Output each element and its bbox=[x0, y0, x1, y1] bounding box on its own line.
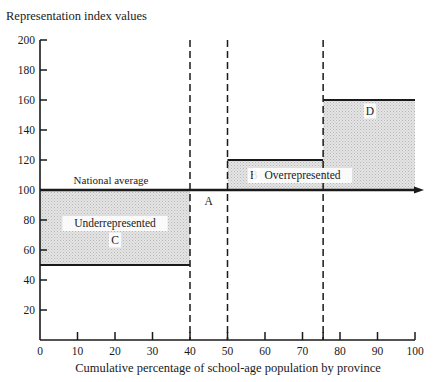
x-tick-label: 70 bbox=[297, 345, 309, 357]
x-tick-label: 60 bbox=[259, 345, 271, 357]
y-tick-label: 140 bbox=[18, 124, 36, 136]
x-tick-label: 20 bbox=[109, 345, 121, 357]
x-tick-label: 100 bbox=[406, 345, 424, 357]
x-tick-label: 80 bbox=[334, 345, 346, 357]
y-axis-title: Representation index values bbox=[6, 9, 147, 23]
y-tick-label: 180 bbox=[18, 64, 36, 76]
annotation-c: C bbox=[111, 234, 119, 246]
y-tick-label: 40 bbox=[24, 274, 36, 286]
x-tick-label: 50 bbox=[222, 345, 234, 357]
national-average-label: National average bbox=[74, 174, 149, 186]
x-tick-label: 90 bbox=[372, 345, 384, 357]
y-tick-label: 160 bbox=[18, 94, 36, 106]
y-tick-label: 80 bbox=[24, 214, 36, 226]
annotation-underrepresented: Underrepresented bbox=[74, 217, 156, 230]
x-tick-label: 30 bbox=[147, 345, 159, 357]
annotation-overrepresented: Overrepresented bbox=[265, 169, 341, 182]
y-tick-label: 200 bbox=[18, 34, 36, 46]
y-tick-label: 20 bbox=[24, 304, 36, 316]
y-tick-label: 60 bbox=[24, 244, 36, 256]
x-tick-label: 0 bbox=[37, 345, 43, 357]
representation-index-chart: 2040608010012014016018020001020304050607… bbox=[0, 0, 446, 382]
y-tick-label: 120 bbox=[18, 154, 36, 166]
annotation-d: D bbox=[366, 105, 374, 117]
arrow-head-icon bbox=[414, 187, 424, 194]
x-tick-label: 10 bbox=[72, 345, 84, 357]
annotation-a: A bbox=[205, 195, 214, 207]
x-axis-title: Cumulative percentage of school-age popu… bbox=[75, 361, 381, 375]
y-tick-label: 100 bbox=[18, 184, 36, 196]
x-tick-label: 40 bbox=[184, 345, 196, 357]
